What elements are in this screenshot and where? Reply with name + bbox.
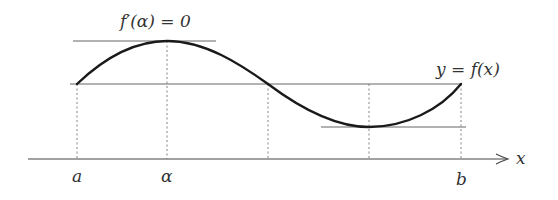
point-label-b: b [456, 169, 467, 189]
point-label-alpha: α [161, 166, 173, 186]
point-label-a: a [72, 166, 82, 186]
rolle-theorem-diagram: f′(α) = 0 y = f(x) x a α b [0, 0, 558, 200]
axis-label-x: x [516, 148, 526, 168]
tangent-label: f′(α) = 0 [118, 11, 191, 31]
curve-label: y = f(x) [435, 59, 500, 79]
